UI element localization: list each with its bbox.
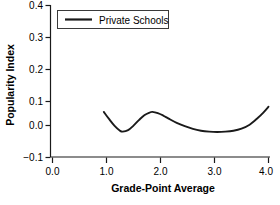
popularity-index-line-chart: 0.4 0.3 0.2 0.1 0.0 −0.1 0.0 1.0 2.0 3.0… (0, 0, 280, 205)
x-tick-label: 0.0 (46, 166, 60, 177)
y-tick-label: 0.1 (29, 96, 43, 107)
x-tick-label: 1.0 (100, 166, 114, 177)
chart-container: 0.4 0.3 0.2 0.1 0.0 −0.1 0.0 1.0 2.0 3.0… (0, 0, 280, 205)
y-axis-title: Popularity Index (4, 44, 16, 126)
x-axis-title: Grade-Point Average (111, 182, 215, 194)
legend-label: Private Schools (99, 15, 168, 26)
y-tick-label: 0.0 (29, 120, 43, 131)
x-tick-label: 3.0 (208, 166, 222, 177)
y-tick-label: 0.3 (29, 32, 43, 43)
y-tick-label: 0.2 (29, 64, 43, 75)
y-axis-tick-labels: 0.4 0.3 0.2 0.1 0.0 −0.1 (23, 0, 43, 163)
y-tick-label: 0.4 (29, 0, 43, 11)
x-axis-ticks (53, 158, 269, 164)
y-axis-ticks (46, 6, 51, 158)
y-tick-label: −0.1 (23, 152, 43, 163)
x-axis-tick-labels: 0.0 1.0 2.0 3.0 4.0 (46, 166, 274, 177)
series-line-private-schools (104, 107, 269, 132)
x-tick-label: 4.0 (259, 166, 273, 177)
x-tick-label: 2.0 (154, 166, 168, 177)
legend: Private Schools (58, 11, 169, 29)
